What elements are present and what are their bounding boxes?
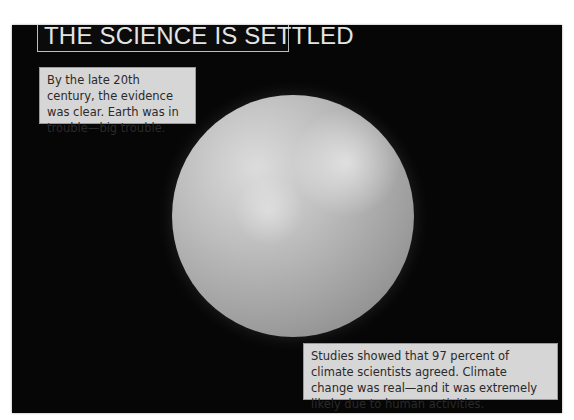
illustration-panel: THE SCIENCE IS SETTLED By the late 20th … (12, 25, 562, 413)
caption-box-bottom: Studies showed that 97 percent of climat… (303, 343, 558, 400)
caption-box-top: By the late 20th century, the evidence w… (39, 67, 196, 124)
title-banner: THE SCIENCE IS SETTLED (37, 25, 289, 52)
earth-globe-image (172, 95, 414, 337)
page-title: THE SCIENCE IS SETTLED (44, 25, 354, 48)
